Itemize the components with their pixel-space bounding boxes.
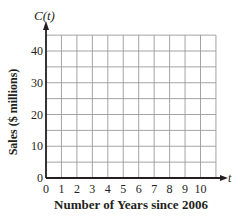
x-tick-label: 7 <box>151 182 157 196</box>
x-tick-label: 6 <box>136 182 142 196</box>
x-tick-label: 3 <box>89 182 95 196</box>
y-tick-label: 10 <box>31 139 43 153</box>
grid-lines <box>46 35 216 178</box>
x-axis-variable-label: t <box>228 171 232 185</box>
chart-canvas: 012345678910 010203040 C(t) t Number of … <box>0 0 245 221</box>
x-tick-label: 8 <box>167 182 173 196</box>
y-tick-label: 30 <box>31 76 43 90</box>
y-tick-label: 20 <box>31 108 43 122</box>
x-axis-arrow-icon <box>220 175 228 181</box>
x-tick-label: 0 <box>43 182 49 196</box>
blank-sales-graph: 012345678910 010203040 C(t) t Number of … <box>0 0 245 221</box>
function-label: C(t) <box>34 8 55 23</box>
x-tick-label: 10 <box>195 182 207 196</box>
x-tick-label: 9 <box>182 182 188 196</box>
y-axis-title: Sales ($ millions) <box>6 69 20 156</box>
x-tick-label: 5 <box>120 182 126 196</box>
x-tick-labels: 012345678910 <box>43 182 207 196</box>
y-tick-labels: 010203040 <box>31 44 43 185</box>
x-tick-label: 1 <box>58 182 64 196</box>
y-tick-label: 40 <box>31 44 43 58</box>
y-tick-label: 0 <box>37 171 43 185</box>
x-axis-title: Number of Years since 2006 <box>54 197 208 212</box>
x-tick-label: 4 <box>105 182 111 196</box>
x-tick-label: 2 <box>74 182 80 196</box>
